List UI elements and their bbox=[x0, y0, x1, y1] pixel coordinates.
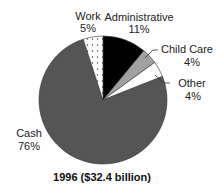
label-work-pct: 5% bbox=[80, 22, 96, 34]
label-administrative-pct: 11% bbox=[128, 23, 149, 35]
label-cash-pct: 76% bbox=[18, 140, 40, 152]
label-cash: Cash bbox=[16, 127, 42, 139]
label-child-care-pct: 4% bbox=[184, 56, 200, 68]
label-administrative: Administrative bbox=[104, 11, 173, 23]
label-work: Work bbox=[75, 10, 101, 22]
label-child-care: Child Care bbox=[161, 43, 213, 55]
chart-title: 1996 ($32.4 billion) bbox=[53, 171, 151, 183]
label-other-pct: 4% bbox=[185, 90, 201, 102]
pie-chart: Work 5% Administrative 11% Child Care 4%… bbox=[0, 0, 218, 189]
label-other: Other bbox=[178, 77, 206, 89]
